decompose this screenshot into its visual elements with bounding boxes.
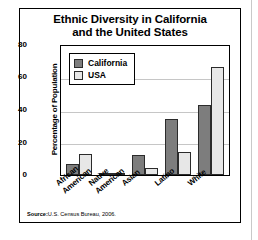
legend-swatch-usa-icon — [74, 71, 83, 80]
chart-title-line-2: and the United States — [26, 26, 234, 39]
y-tick-60: 60 — [3, 72, 27, 81]
legend-swatch-california-icon — [74, 59, 83, 68]
y-tick-80: 80 — [3, 40, 27, 49]
source-label: Source: — [27, 211, 48, 217]
source-note: Source:U.S. Census Bureau, 2006. — [27, 211, 116, 217]
chart-title: Ethnic Diversity in California and the U… — [26, 13, 234, 38]
page-edge-line — [251, 0, 252, 240]
legend-label-california: California — [88, 58, 127, 68]
y-tick-20: 20 — [3, 138, 27, 147]
chart-legend: California USA — [69, 53, 135, 85]
y-axis-title: Percentage of Population — [50, 50, 59, 170]
legend-item-usa: USA — [74, 69, 127, 81]
figure-container: Ethnic Diversity in California and the U… — [19, 8, 241, 223]
legend-label-usa: USA — [88, 70, 106, 80]
y-tick-0: 0 — [3, 170, 27, 179]
legend-item-california: California — [74, 57, 127, 69]
y-tick-40: 40 — [3, 105, 27, 114]
source-value: U.S. Census Bureau, 2006. — [48, 211, 116, 217]
chart-title-line-1: Ethnic Diversity in California — [53, 13, 207, 25]
